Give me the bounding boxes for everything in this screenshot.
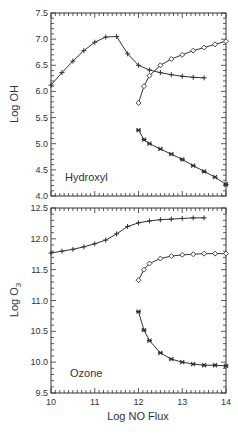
star-marker-icon: [202, 169, 207, 173]
star-marker-icon: [169, 357, 174, 361]
ylabel-subscript: 3: [14, 282, 23, 287]
x-tick-label: 10: [46, 397, 56, 407]
top-panel-annotation: Hydroxyl: [65, 171, 108, 183]
series-star-line: [139, 130, 227, 184]
plus-marker-icon: [147, 67, 152, 72]
diamond-marker-icon: [213, 42, 218, 47]
y-tick-label: 7.5: [35, 8, 48, 18]
star-marker-icon: [213, 363, 218, 367]
y-tick-label: 4.0: [35, 191, 48, 201]
star-marker-icon: [169, 152, 174, 156]
plus-marker-icon: [136, 220, 141, 225]
star-marker-icon: [191, 362, 196, 366]
diamond-marker-icon: [191, 252, 196, 257]
diamond-marker-icon: [158, 256, 163, 261]
diamond-marker-icon: [169, 254, 174, 259]
bottom-y-axis-label: Log O3: [8, 282, 23, 317]
star-marker-icon: [141, 138, 146, 142]
y-tick-label: 12.0: [30, 234, 48, 244]
star-marker-icon: [158, 147, 163, 151]
plus-marker-icon: [103, 238, 108, 243]
diamond-marker-icon: [169, 57, 174, 62]
y-tick-label: 12.5: [30, 203, 48, 213]
y-tick-label: 6.0: [35, 86, 48, 96]
diamond-marker-icon: [224, 251, 229, 256]
y-tick-label: 11.0: [31, 296, 48, 306]
ozone-panel: 9.510.010.511.011.512.012.51011121314: [30, 203, 231, 407]
y-tick-label: 10.5: [30, 326, 48, 336]
plus-marker-icon: [92, 241, 97, 246]
diamond-marker-icon: [141, 84, 146, 89]
plus-marker-icon: [180, 216, 185, 221]
y-tick-label: 5.0: [35, 139, 48, 149]
diamond-marker-icon: [136, 278, 141, 283]
x-tick-label: 11: [90, 397, 99, 407]
bottom-panel-annotation: Ozone: [70, 367, 102, 379]
plus-marker-icon: [59, 249, 64, 254]
diamond-marker-icon: [191, 48, 196, 53]
plus-marker-icon: [191, 75, 196, 80]
top-y-axis-label: Log OH: [8, 85, 20, 123]
ylabel-main: Log O: [8, 287, 20, 317]
diamond-marker-icon: [180, 252, 185, 257]
plus-marker-icon: [114, 34, 119, 39]
plus-marker-icon: [169, 72, 174, 77]
y-tick-label: 10.0: [30, 357, 48, 367]
plus-marker-icon: [81, 244, 86, 249]
star-marker-icon: [202, 363, 207, 367]
diamond-marker-icon: [213, 251, 218, 256]
diamond-marker-icon: [202, 251, 207, 256]
x-tick-label: 14: [221, 397, 231, 407]
plus-marker-icon: [180, 74, 185, 79]
plus-marker-icon: [202, 215, 207, 220]
x-tick-label: 12: [133, 397, 143, 407]
plus-marker-icon: [70, 247, 75, 252]
y-tick-label: 6.5: [35, 60, 48, 70]
y-tick-label: 11.5: [31, 265, 48, 275]
series-diamond-line: [139, 41, 227, 103]
plus-marker-icon: [158, 217, 163, 222]
star-marker-icon: [191, 164, 196, 168]
plus-marker-icon: [103, 35, 108, 40]
plus-marker-icon: [147, 218, 152, 223]
y-tick-label: 4.5: [35, 165, 48, 175]
diamond-marker-icon: [136, 100, 141, 105]
star-marker-icon: [158, 351, 163, 355]
star-marker-icon: [180, 360, 185, 364]
figure: 4.04.55.05.56.06.57.07.5 9.510.010.511.0…: [0, 0, 238, 435]
star-marker-icon: [136, 128, 141, 132]
plus-marker-icon: [158, 70, 163, 75]
star-marker-icon: [147, 142, 152, 146]
star-marker-icon: [147, 339, 152, 343]
y-tick-label: 5.5: [35, 113, 48, 123]
plus-marker-icon: [202, 75, 207, 80]
star-marker-icon: [213, 175, 218, 179]
diamond-marker-icon: [202, 45, 207, 50]
y-tick-label: 7.0: [35, 34, 48, 44]
series-star-line: [139, 312, 227, 366]
x-axis-label: Log NO Flux: [107, 410, 169, 422]
plus-marker-icon: [169, 217, 174, 222]
series-cross-line: [51, 218, 204, 253]
plus-marker-icon: [191, 215, 196, 220]
x-tick-label: 13: [177, 397, 187, 407]
diamond-marker-icon: [180, 52, 185, 57]
star-marker-icon: [180, 157, 185, 161]
